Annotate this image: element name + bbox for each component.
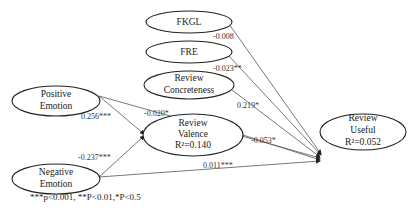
svg-text:FKGL: FKGL bbox=[177, 17, 202, 27]
significance-note: ***p<0.001, **P<0.01,*P<0.5 bbox=[30, 192, 141, 202]
coef-positive-valence: 0.256*** bbox=[81, 112, 111, 121]
coef-positive-useful: -0.020* bbox=[144, 109, 169, 118]
coef-valence-useful: -0.053* bbox=[251, 136, 276, 145]
svg-text:Review: Review bbox=[174, 73, 203, 83]
svg-text:Review: Review bbox=[348, 113, 377, 123]
coef-negative-useful: 0.011*** bbox=[203, 161, 233, 170]
svg-text:FRE: FRE bbox=[180, 47, 198, 57]
coef-fre-useful: -0.023** bbox=[213, 64, 242, 73]
svg-text:Negative: Negative bbox=[39, 167, 73, 177]
svg-text:Review: Review bbox=[178, 118, 207, 128]
node-fre: FRE bbox=[146, 41, 232, 63]
path-diagram: FKGL FRE Review Concreteness Positive Em… bbox=[0, 0, 418, 214]
svg-text:Emotion: Emotion bbox=[40, 101, 73, 111]
node-review-useful: Review Useful R²=0.052 bbox=[320, 113, 406, 150]
svg-text:Concreteness: Concreteness bbox=[164, 85, 215, 95]
svg-text:Emotion: Emotion bbox=[40, 179, 73, 189]
svg-text:R²=0.140: R²=0.140 bbox=[175, 140, 211, 150]
svg-text:Positive: Positive bbox=[41, 89, 72, 99]
node-review-concreteness: Review Concreteness bbox=[144, 71, 234, 99]
node-review-valence: Review Valence R²=0.140 bbox=[143, 114, 243, 156]
node-negative-emotion: Negative Emotion bbox=[12, 164, 100, 194]
coef-concreteness-useful: 0.219* bbox=[237, 101, 259, 110]
node-fkgl: FKGL bbox=[146, 11, 232, 33]
svg-text:R²=0.052: R²=0.052 bbox=[345, 137, 381, 147]
coef-fkgl-useful: -0.008 bbox=[213, 32, 234, 41]
svg-text:Valence: Valence bbox=[178, 129, 208, 139]
coef-negative-valence: -0.237*** bbox=[78, 153, 111, 162]
svg-text:Useful: Useful bbox=[350, 125, 376, 135]
